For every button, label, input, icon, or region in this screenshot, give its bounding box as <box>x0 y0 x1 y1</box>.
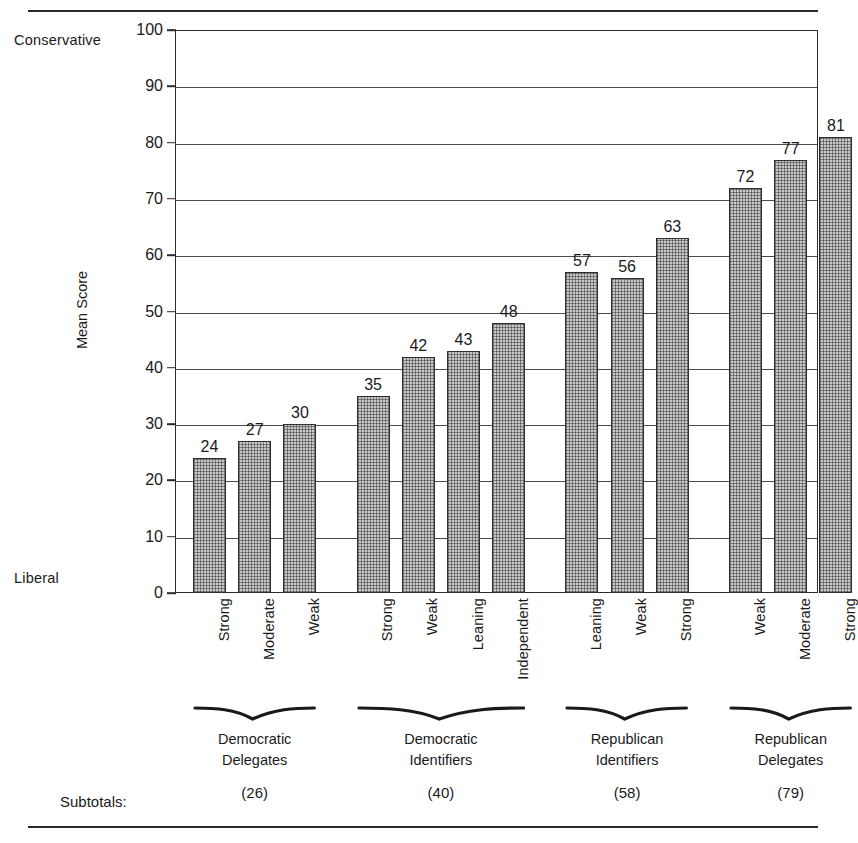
bar-value-label: 42 <box>409 337 427 355</box>
top-rule <box>28 10 818 12</box>
x-axis-tick-labels: StrongModerateWeakStrongWeakLeaningIndep… <box>175 598 818 698</box>
bar[interactable]: 63 <box>656 238 689 593</box>
y-tick-label-60: 60 <box>103 246 163 264</box>
bar[interactable]: 24 <box>193 458 226 593</box>
group-name-line-2: Identifiers <box>565 751 688 770</box>
x-tick-label: Strong <box>379 598 395 641</box>
group-subtotal-value: (58) <box>565 784 688 801</box>
y-tick-label-70: 70 <box>103 190 163 208</box>
bar[interactable]: 30 <box>283 424 316 593</box>
group-name-line-1: Republican <box>565 730 688 749</box>
x-tick-label: Leaning <box>470 598 486 650</box>
curly-brace-icon <box>565 706 688 728</box>
bar[interactable]: 72 <box>729 188 762 593</box>
group-name-line-1: Democratic <box>357 730 526 749</box>
group-subtotal-value: (40) <box>357 784 526 801</box>
group-name-line-2: Identifiers <box>357 751 526 770</box>
curly-brace-icon <box>193 706 316 728</box>
x-tick-label: Independent <box>515 598 531 680</box>
x-tick-label: Strong <box>216 598 232 641</box>
y-tick-label-40: 40 <box>103 359 163 377</box>
x-tick-label: Leaning <box>588 598 604 650</box>
bar[interactable]: 43 <box>447 351 480 593</box>
bar-value-label: 72 <box>737 168 755 186</box>
bar-value-label: 81 <box>827 117 845 135</box>
curly-brace-icon <box>729 706 852 728</box>
y-tick-label-90: 90 <box>103 77 163 95</box>
group-name-line-2: Delegates <box>729 751 852 770</box>
bar[interactable]: 42 <box>402 357 435 593</box>
y-tick-label-50: 50 <box>103 303 163 321</box>
group-name-line-1: Republican <box>729 730 852 749</box>
bar[interactable]: 35 <box>357 396 390 593</box>
y-tick-label-80: 80 <box>103 134 163 152</box>
bar-value-label: 43 <box>455 331 473 349</box>
bar[interactable]: 48 <box>492 323 525 593</box>
group-3: RepublicanIdentifiers(58) <box>565 706 688 801</box>
gridline-90 <box>176 87 817 88</box>
y-tick-label-0: 0 <box>103 584 163 602</box>
x-tick-label: Weak <box>424 598 440 635</box>
bar-value-label: 57 <box>573 252 591 270</box>
axis-anchor-liberal: Liberal <box>14 570 59 586</box>
bottom-rule <box>28 826 818 828</box>
bar[interactable]: 27 <box>238 441 271 593</box>
bar-value-label: 30 <box>291 404 309 422</box>
group-subtotal-value: (26) <box>193 784 316 801</box>
x-tick-label: Weak <box>752 598 768 635</box>
bar-value-label: 27 <box>246 421 264 439</box>
curly-brace-icon <box>357 706 526 728</box>
bar-value-label: 77 <box>782 140 800 158</box>
bar-value-label: 24 <box>201 438 219 456</box>
group-1: DemocraticDelegates(26) <box>193 706 316 801</box>
bar-value-label: 63 <box>663 218 681 236</box>
bar[interactable]: 56 <box>611 278 644 593</box>
axis-anchor-conservative: Conservative <box>14 32 101 48</box>
y-axis-title: Mean Score <box>74 220 90 400</box>
gridline-70 <box>176 200 817 201</box>
bar-value-label: 35 <box>364 376 382 394</box>
subtotals-row-label: Subtotals: <box>60 793 127 810</box>
x-tick-label: Moderate <box>797 598 813 660</box>
gridline-60 <box>176 256 817 257</box>
y-tick-label-30: 30 <box>103 415 163 433</box>
x-tick-label: Weak <box>306 598 322 635</box>
bar-value-label: 48 <box>500 303 518 321</box>
group-annotations: DemocraticDelegates(26)DemocraticIdentif… <box>175 706 818 826</box>
x-tick-label: Weak <box>633 598 649 635</box>
bar-value-label: 56 <box>618 258 636 276</box>
group-subtotal-value: (79) <box>729 784 852 801</box>
bar[interactable]: 81 <box>819 137 852 593</box>
x-tick-label: Strong <box>842 598 858 641</box>
gridline-80 <box>176 144 817 145</box>
bar[interactable]: 77 <box>774 160 807 594</box>
gridline-50 <box>176 313 817 314</box>
group-name-line-1: Democratic <box>193 730 316 749</box>
group-2: DemocraticIdentifiers(40) <box>357 706 526 801</box>
group-4: RepublicanDelegates(79) <box>729 706 852 801</box>
y-tick-label-20: 20 <box>103 471 163 489</box>
y-tick-label-10: 10 <box>103 528 163 546</box>
x-tick-label: Strong <box>678 598 694 641</box>
bar[interactable]: 57 <box>565 272 598 593</box>
x-tick-label: Moderate <box>261 598 277 660</box>
y-tick-label-100: 100 <box>103 21 163 39</box>
group-name-line-2: Delegates <box>193 751 316 770</box>
